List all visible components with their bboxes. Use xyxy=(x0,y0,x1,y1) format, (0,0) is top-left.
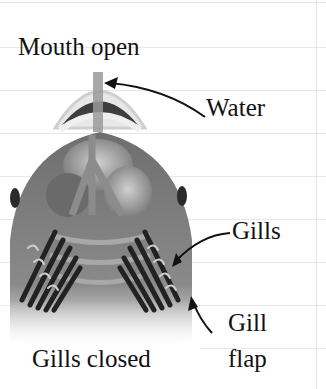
fish-body xyxy=(0,132,200,350)
gill-flap-label-line2: flap xyxy=(228,346,267,371)
gills-label: Gills xyxy=(232,218,281,243)
mouth-open-label: Mouth open xyxy=(18,34,140,59)
gill-flap-label-line1: Gill xyxy=(228,310,267,335)
gills-closed-label: Gills closed xyxy=(32,346,151,371)
water-label: Water xyxy=(206,95,265,120)
water-arrowhead xyxy=(104,77,118,89)
right-eye xyxy=(177,186,187,206)
left-eye xyxy=(10,188,20,208)
water-stream xyxy=(93,72,103,132)
